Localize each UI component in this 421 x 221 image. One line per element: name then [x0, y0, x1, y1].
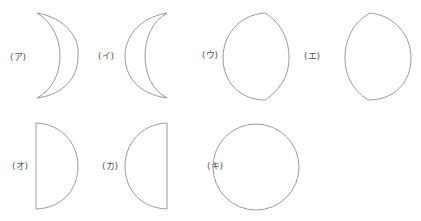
gibbous-left-shape: [345, 13, 411, 100]
gibbous-right-shape: [223, 13, 289, 100]
shapes-canvas: [0, 0, 421, 221]
half-disc-left-shape: [125, 123, 167, 209]
crescent-right-shape: [37, 13, 78, 98]
half-disc-right-shape: [36, 123, 78, 209]
crescent-left-shape: [125, 13, 167, 98]
full-circle-shape: [213, 124, 299, 210]
